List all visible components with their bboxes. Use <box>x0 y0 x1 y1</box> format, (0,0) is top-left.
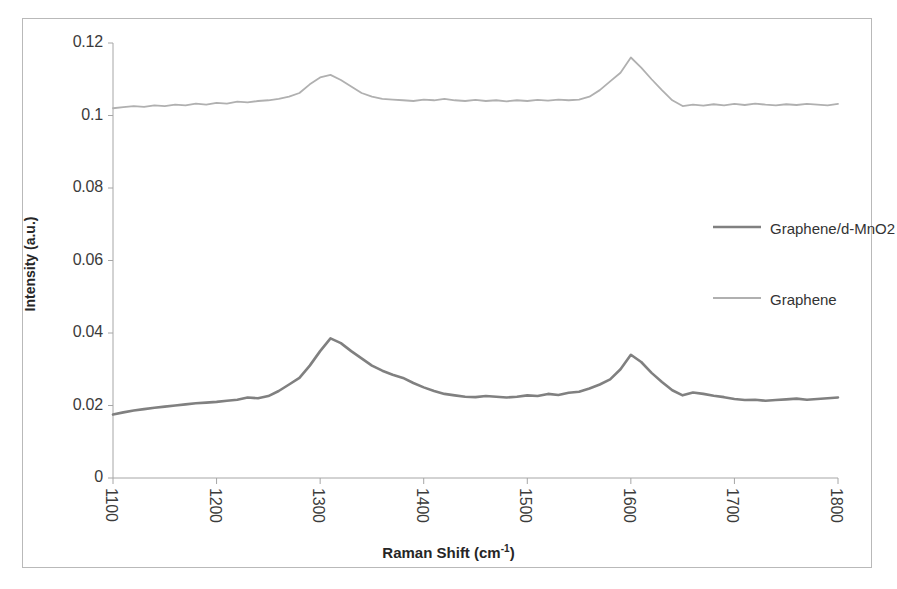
x-axis-title-superscript: -1 <box>501 543 510 554</box>
x-axis-title-base: Raman Shift (cm <box>382 544 500 561</box>
legend-label: Graphene/d-MnO2 <box>770 219 897 238</box>
y-tick-label: 0.02 <box>43 396 103 414</box>
x-axis-title: Raman Shift (cm-1) <box>0 543 897 561</box>
y-tick-label: 0.1 <box>43 106 103 124</box>
data-series <box>113 58 838 415</box>
x-tick-label: 1800 <box>827 488 845 523</box>
y-tick-label: 0.08 <box>43 178 103 196</box>
legend-swatches <box>713 227 761 298</box>
x-tick-label: 1500 <box>516 488 534 523</box>
series-line-1 <box>113 58 838 109</box>
x-tick-label: 1100 <box>102 488 120 522</box>
plot-canvas <box>0 0 897 589</box>
y-tick-label: 0.06 <box>43 251 103 269</box>
x-tick-label: 1700 <box>723 488 741 523</box>
x-tick-label: 1600 <box>620 488 638 523</box>
axis-lines <box>113 43 838 478</box>
x-tick-label: 1400 <box>413 488 431 523</box>
y-axis-title: Intensity (a.u.) <box>22 174 38 354</box>
y-tick-label: 0.04 <box>43 323 103 341</box>
tick-marks <box>108 43 838 484</box>
legend-label: Graphene <box>770 290 897 309</box>
x-tick-label: 1200 <box>206 488 224 523</box>
raman-spectra-figure: 00.020.040.060.080.10.12 110012001300140… <box>0 0 897 589</box>
y-tick-label: 0 <box>43 468 103 486</box>
x-tick-label: 1300 <box>309 488 327 523</box>
y-tick-label: 0.12 <box>43 33 103 51</box>
x-axis-title-tail: ) <box>510 544 515 561</box>
series-line-0 <box>113 338 838 414</box>
